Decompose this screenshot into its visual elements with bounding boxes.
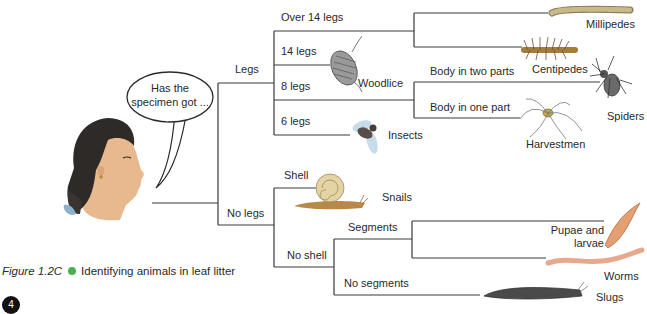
figure-number: Figure 1.2C — [2, 265, 62, 277]
label-segments: Segments — [348, 221, 398, 233]
figure-caption: Figure 1.2CIdentifying animals in leaf l… — [2, 265, 235, 277]
label-pupae-line1: Pupae and — [551, 224, 604, 236]
woodlouse-illustration — [326, 36, 363, 92]
label-over-14-legs: Over 14 legs — [281, 11, 344, 23]
label-14-legs: 14 legs — [281, 45, 317, 57]
label-insects: Insects — [388, 129, 423, 141]
tree-lines — [152, 13, 604, 295]
label-no-segments: No segments — [344, 277, 409, 289]
slug-illustration — [484, 282, 588, 299]
label-snails: Snails — [382, 191, 412, 203]
label-body-one-part: Body in one part — [430, 101, 510, 113]
student-head-illustration — [64, 118, 144, 220]
label-no-shell: No shell — [287, 249, 327, 261]
label-spiders: Spiders — [607, 110, 645, 122]
bubble-line-1: Has the — [151, 82, 189, 94]
harvestman-illustration — [520, 99, 582, 139]
label-slugs: Slugs — [596, 291, 624, 303]
bubble-line-2: specimen got ... — [131, 96, 209, 108]
caption-bullet-icon — [68, 267, 76, 275]
label-6-legs: 6 legs — [281, 115, 311, 127]
label-worms: Worms — [604, 270, 639, 282]
label-woodlice: Woodlice — [358, 77, 403, 89]
label-no-legs: No legs — [227, 207, 265, 219]
label-pupae-line2: larvae — [574, 237, 604, 249]
label-legs: Legs — [235, 63, 259, 75]
label-centipedes: Centipedes — [532, 63, 588, 75]
worm-illustration — [548, 250, 642, 263]
label-body-two-parts: Body in two parts — [430, 65, 515, 77]
spider-illustration — [590, 56, 632, 98]
label-shell: Shell — [284, 169, 308, 181]
fly-illustration — [351, 118, 380, 155]
millipede-illustration — [552, 9, 630, 13]
label-harvestmen: Harvestmen — [526, 138, 585, 150]
label-8-legs: 8 legs — [281, 80, 311, 92]
centipede-illustration — [524, 37, 575, 60]
caption-text: Identifying animals in leaf litter — [81, 265, 235, 277]
label-millipedes: Millipedes — [586, 18, 635, 30]
pupa-illustration — [605, 203, 640, 248]
page-number: 4 — [2, 296, 20, 314]
